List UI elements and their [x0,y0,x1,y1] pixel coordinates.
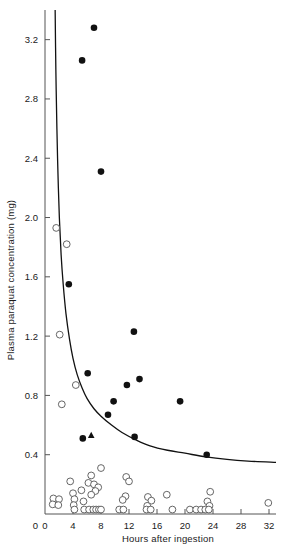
y-tick-label: 0 [33,520,38,531]
x-tick-label: 12 [124,520,135,531]
data-point-open-circle [147,506,154,513]
data-point-open-circle [163,491,170,498]
x-tick-label: 4 [70,520,75,531]
data-point-open-circle [205,506,212,513]
data-point-open-circle [55,502,62,509]
data-point-filled-circle [177,398,184,405]
x-tick-label: 28 [236,520,247,531]
y-tick-label: 2.0 [25,212,38,223]
open-circle-points [49,225,271,513]
data-point-filled-circle [66,281,73,288]
data-point-open-circle [169,506,176,513]
prognosis-curve-path [55,10,276,462]
data-point-filled-circle [131,328,138,335]
data-point-triangle [88,432,95,438]
y-tick-labels: 00.40.81.21.62.02.42.83.2 [25,34,38,531]
data-point-open-circle [120,506,127,513]
scatter-plot: 048121620242832 00.40.81.21.62.02.42.83.… [0,0,291,551]
x-axis-title: Hours after ingestion [122,533,214,544]
data-point-filled-circle [203,451,210,458]
prognosis-curve [55,10,276,462]
y-tick-label: 0.4 [25,449,38,460]
data-point-open-circle [72,382,79,389]
data-point-open-circle [67,478,74,485]
data-point-filled-circle [124,382,131,389]
data-point-open-circle [126,478,133,485]
data-point-open-circle [187,506,194,513]
data-point-open-circle [88,472,95,479]
data-point-filled-circle [98,168,105,175]
y-tick-label: 1.2 [25,331,38,342]
y-tick-label: 3.2 [25,34,38,45]
data-point-filled-circle [91,24,98,31]
data-point-filled-circle [79,57,86,64]
data-point-open-circle [80,498,87,505]
data-point-filled-circle [136,376,143,383]
chart-figure: 048121620242832 00.40.81.21.62.02.42.83.… [0,0,291,551]
data-point-open-circle [63,241,70,248]
data-point-filled-circle [105,411,112,418]
x-tick-label: 8 [98,520,103,531]
data-point-open-circle [58,401,65,408]
y-tick-label: 2.8 [25,93,38,104]
x-tick-label: 32 [264,520,275,531]
data-point-open-circle [207,488,214,495]
data-point-open-circle [78,487,85,494]
x-tick-label: 16 [152,520,163,531]
x-tick-labels: 048121620242832 [42,520,274,531]
data-point-open-circle [88,491,95,498]
y-tick-label: 2.4 [25,153,38,164]
axis-ticks [45,40,269,514]
data-point-open-circle [56,331,63,338]
x-tick-label: 24 [208,520,219,531]
data-point-open-circle [71,506,78,513]
y-tick-label: 0.8 [25,390,38,401]
x-tick-label: 20 [180,520,191,531]
y-tick-label: 1.6 [25,271,38,282]
x-tick-label: 0 [42,520,47,531]
data-point-filled-circle [84,370,91,377]
data-point-open-circle [119,497,126,504]
data-point-filled-circle [131,434,138,441]
filled-circle-points [66,24,211,458]
data-point-open-circle [265,499,272,506]
data-point-filled-circle [80,435,87,442]
data-point-open-circle [98,506,105,513]
y-axis-title: Plasma paraquat concentration (mg) [5,200,16,360]
triangle-point [88,432,95,438]
data-point-open-circle [53,225,60,232]
data-point-filled-circle [110,398,117,405]
data-point-open-circle [98,465,105,472]
